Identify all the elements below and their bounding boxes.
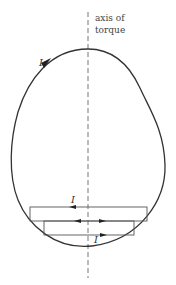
arrow-right-icon (100, 233, 107, 237)
current-label-bottom-loop: I (93, 234, 99, 245)
axis-label-line1: axis of (95, 13, 125, 23)
axis-label-line2: torque (95, 25, 125, 35)
arrow-right-icon (99, 219, 106, 223)
current-label-top-loop: I (70, 194, 76, 205)
arrow-left-icon (74, 219, 81, 223)
arrow-left-icon (69, 205, 76, 209)
torque-diagram: axis of torque I I I (0, 0, 176, 285)
loop-rectangle-bottom (44, 221, 134, 235)
